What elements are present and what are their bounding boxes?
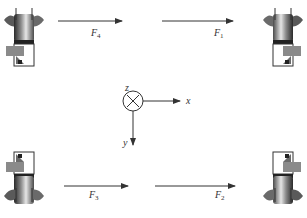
z-axis-label: z [124, 82, 129, 93]
coordinate-frame: z x y [122, 82, 191, 148]
force-label-f1: F1 [213, 27, 224, 40]
force-label-f3: F3 [88, 189, 99, 202]
unit-bottom-left [4, 152, 44, 204]
y-axis-label: y [122, 137, 128, 148]
force-label-f2: F2 [214, 189, 225, 202]
unit-top-left [4, 8, 44, 66]
unit-top-right [263, 8, 303, 66]
force-diagram: F4 F1 F3 F2 z x y [0, 0, 307, 218]
unit-bottom-right [263, 152, 303, 204]
force-label-f4: F4 [90, 27, 101, 40]
x-axis-label: x [185, 95, 191, 106]
